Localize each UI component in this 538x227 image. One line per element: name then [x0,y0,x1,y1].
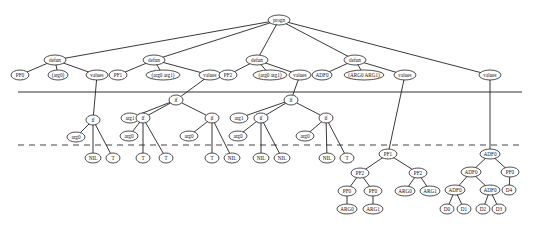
tree-node-adf0-ll: ADF0 [445,185,465,195]
tree-node-arg0-leaf: ARG0 [337,204,357,214]
node-label: if [141,115,144,121]
tree-node-if1: if [169,95,183,105]
node-label: ARG1 [423,188,437,194]
tree-node-if1b: if [205,113,219,123]
node-label: arg0 [300,133,310,139]
tree-svg: progndefunPF0(arg0)valuesdefunPF1(arg0 a… [0,0,538,227]
node-label: ADF0 [316,72,329,78]
tree-node-pf1-name: PF1 [109,70,127,80]
tree-node-pf0-values: values [86,70,108,80]
node-label: ADF0 [449,187,462,193]
node-label: ARG0 [398,188,412,194]
node-label: if [324,115,327,121]
tree-node-if2a-nil2: NIL [274,153,290,163]
node-label: NIL [323,155,332,161]
node-label: NIL [257,155,266,161]
tree-edge [326,118,347,158]
tree-node-main-values: values [479,70,501,80]
tree-node-progn: progn [268,15,290,25]
tree-node-if1b-arg: arg0 [180,131,198,141]
node-label: if [259,115,262,121]
tree-node-if2a-arg: arg0 [229,131,247,141]
node-label: (arg0 arg1) [152,72,175,79]
node-label: values [203,72,216,78]
tree-node-pf2-left: PF2 [351,168,369,178]
tree-node-if0-nil: NIL [85,153,101,163]
tree-node-d3: D3 [492,204,506,214]
node-label: PF0 [369,188,378,194]
node-label: NIL [278,155,287,161]
node-label: D2 [480,206,487,212]
tree-node-pf2-name: PF2 [219,70,237,80]
tree-node-adf0-lr: ADF0 [480,185,500,195]
tree-node-adf0-name: ADF0 [312,70,332,80]
node-label: PF2 [414,170,423,176]
node-label: D4 [506,187,513,193]
node-label: defun [49,57,61,63]
tree-edge [93,120,113,158]
tree-edge [279,20,355,60]
tree-edge [279,20,490,75]
node-label: ADF0 [484,151,497,157]
node-label: D3 [496,206,503,212]
node-label: (ARG0 ARG1) [348,72,380,79]
node-label: D0 [444,206,451,212]
tree-node-if1b-t: T [205,153,219,163]
tree-node-defun2: defun [246,55,268,65]
node-label: arg0 [184,133,194,139]
tree-node-if2a: if [254,113,268,123]
tree-node-arg1-r: ARG1 [420,186,440,196]
node-label: NIL [89,155,98,161]
tree-edge [93,75,97,120]
tree-node-if0-arg: arg0 [67,132,85,142]
node-label: values [483,72,496,78]
tree-edge [388,75,405,154]
tree-node-if1a: if [136,113,150,123]
node-label: ARG1 [366,206,380,212]
node-label: arg0 [124,133,134,139]
node-label: (arg0 arg1) [259,72,282,79]
tree-node-d0: D0 [440,204,454,214]
tree-node-defun0: defun [44,55,66,65]
node-label: PF2 [224,72,233,78]
tree-node-pf0-args: (arg0) [48,70,68,80]
tree-node-if2b-arg: arg0 [296,131,314,141]
tree-node-pf0-a: PF0 [338,186,356,196]
node-label: PF2 [356,170,365,176]
node-label: if [91,117,94,123]
node-label: arg0 [233,133,243,139]
tree-node-defun1: defun [143,55,165,65]
tree-node-adf0-args: (ARG0 ARG1) [344,70,384,80]
tree-node-if1a-t2: T [159,153,173,163]
tree-edge [55,20,279,60]
tree-node-pf0-name: PF0 [11,70,29,80]
tree-node-if1a-t1: T [136,153,150,163]
tree-node-if0: if [86,115,100,125]
tree-node-pf1-values: values [199,70,221,80]
tree-node-if2-arg: arg1 [230,113,248,123]
tree-node-if2a-nil1: NIL [253,153,269,163]
tree-node-adf0-root: ADF0 [480,149,500,159]
tree-node-d4: D4 [502,185,516,195]
tree-node-pf0-r: PF0 [501,167,519,177]
node-label: D1 [461,206,468,212]
node-label: values [90,72,103,78]
tree-node-defun3: defun [344,55,366,65]
node-label: if [210,115,213,121]
tree-edge [261,118,282,158]
program-tree-diagram: progndefunPF0(arg0)valuesdefunPF1(arg0 a… [0,0,538,227]
node-label: PF0 [343,188,352,194]
tree-node-arg1-leaf: ARG1 [363,204,383,214]
tree-node-if1a-arg: arg0 [120,131,138,141]
node-label: arg0 [71,134,81,140]
node-label: arg1 [125,115,135,121]
tree-node-d1: D1 [457,204,471,214]
node-label: ADF0 [484,187,497,193]
node-label: PF1 [384,151,393,157]
tree-node-arg0-r: ARG0 [395,186,415,196]
tree-node-pf1-call: PF1 [379,149,397,159]
tree-node-pf2-args: (arg0 arg1) [253,70,287,80]
tree-node-adf0-values: values [394,70,416,80]
node-label: (arg0) [52,72,65,79]
node-label: values [293,72,306,78]
